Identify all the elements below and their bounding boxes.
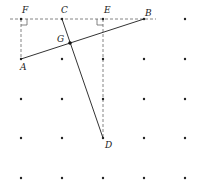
label-E: E xyxy=(103,5,111,15)
label-B: B xyxy=(144,8,152,18)
point-G xyxy=(68,41,72,45)
geometry-diagram: F C E B G A D xyxy=(0,0,199,184)
grid-dots xyxy=(20,18,186,179)
label-F: F xyxy=(21,5,29,15)
right-angle-marker-E xyxy=(97,19,103,25)
label-G: G xyxy=(57,34,64,44)
right-angle-marker-F xyxy=(21,19,27,25)
label-D: D xyxy=(104,140,112,150)
label-A: A xyxy=(19,62,27,72)
segment-CD xyxy=(62,19,103,138)
segment-AB xyxy=(21,19,144,59)
label-C: C xyxy=(61,5,68,15)
